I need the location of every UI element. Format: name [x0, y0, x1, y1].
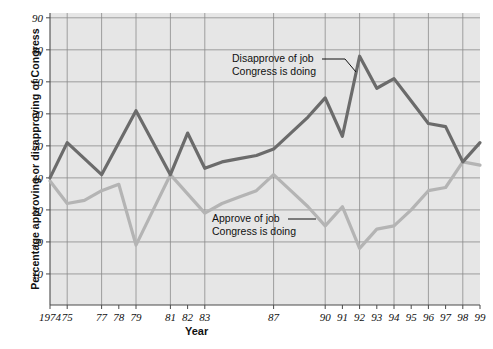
svg-text:79: 79: [131, 311, 143, 323]
svg-text:93: 93: [371, 311, 383, 323]
svg-text:70: 70: [32, 76, 44, 88]
svg-text:80: 80: [32, 44, 44, 56]
svg-text:99: 99: [475, 311, 487, 323]
svg-text:50: 50: [32, 140, 44, 152]
x-axis-tick-labels: 1974757778798182838790919293949596979899: [39, 305, 486, 323]
y-axis-tick-labels: 102030405060708090: [31, 12, 50, 280]
svg-text:30: 30: [31, 204, 44, 216]
svg-text:Approve of job: Approve of job: [212, 212, 280, 224]
svg-text:92: 92: [354, 311, 366, 323]
svg-text:Congress is doing: Congress is doing: [232, 65, 316, 77]
svg-text:60: 60: [32, 108, 44, 120]
chart-plot-area: 102030405060708090 197475777879818283879…: [0, 0, 493, 349]
svg-text:91: 91: [337, 311, 348, 323]
svg-text:82: 82: [182, 311, 194, 323]
svg-text:20: 20: [32, 236, 44, 248]
svg-text:90: 90: [32, 12, 44, 24]
svg-text:40: 40: [32, 172, 44, 184]
svg-text:87: 87: [268, 311, 280, 323]
congress-approval-chart: 102030405060708090 197475777879818283879…: [0, 0, 493, 349]
svg-text:10: 10: [32, 268, 44, 280]
svg-text:1974: 1974: [39, 311, 62, 323]
svg-text:83: 83: [199, 311, 211, 323]
svg-text:Congress is doing: Congress is doing: [212, 225, 296, 237]
svg-text:78: 78: [113, 311, 125, 323]
svg-text:97: 97: [440, 311, 452, 323]
svg-text:81: 81: [165, 311, 176, 323]
svg-text:98: 98: [457, 311, 469, 323]
svg-text:96: 96: [423, 311, 435, 323]
svg-text:Disapprove of job: Disapprove of job: [232, 52, 314, 64]
svg-text:77: 77: [96, 311, 108, 323]
svg-text:95: 95: [406, 311, 418, 323]
svg-text:75: 75: [62, 311, 74, 323]
svg-text:94: 94: [389, 311, 401, 323]
x-axis-title: Year: [185, 325, 208, 337]
svg-text:90: 90: [320, 311, 332, 323]
